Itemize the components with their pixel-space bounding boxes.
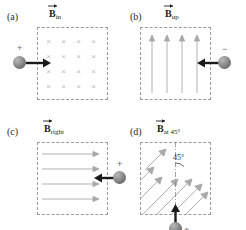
field-arrows-diagonal [131,149,208,217]
charge-particle [13,56,26,69]
velocity-arrow-head [197,59,205,68]
charge-sign: + [17,44,22,53]
charge-sign: + [117,160,122,169]
charge-particle [218,56,231,69]
field-arrows-up [149,35,199,93]
charge-particle [169,222,182,230]
panel-d: (d) B at 45° [123,115,246,230]
field-arrows-right [42,151,99,201]
velocity-arrow-head [43,59,51,68]
panel-c: (c) B right + [0,115,123,230]
panel-b: (b) B up − [123,0,246,115]
charge-sign: − [222,45,227,54]
panel-d-overlay [123,115,246,230]
angle-arc [176,163,185,167]
charge-sign: + [184,226,189,230]
panel-c-overlay [0,115,123,230]
velocity-arrow-head [94,174,102,183]
velocity-arrow-head [171,204,180,212]
panel-a: (a) B in × × × × × × × × × × × × × × × × [0,0,123,115]
angle-label: 45° [173,153,184,162]
physics-figure: (a) B in × × × × × × × × × × × × × × × × [0,0,246,230]
